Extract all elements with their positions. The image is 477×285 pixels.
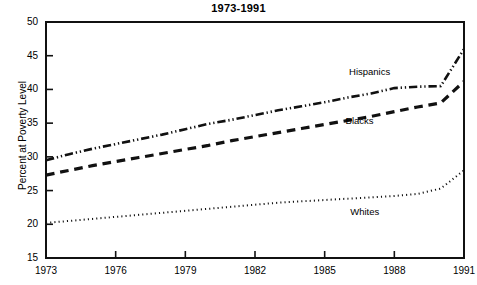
y-axis-tick-label: 45 [12, 51, 38, 61]
y-axis-tick-label: 15 [12, 253, 38, 263]
series-label-whites: Whites [350, 207, 379, 217]
y-axis-tick-label: 20 [12, 219, 38, 229]
x-axis-tick-label: 1976 [96, 266, 136, 276]
series-label-blacks: Blacks [346, 116, 374, 126]
y-axis-tick-label: 50 [12, 17, 38, 27]
y-axis-tick-label: 30 [12, 152, 38, 162]
x-axis-tick-label: 1985 [305, 266, 345, 276]
x-axis-tick-label: 1982 [235, 266, 275, 276]
plot-area [0, 0, 477, 285]
series-line-blacks [46, 81, 464, 175]
x-axis-tick-label: 1973 [26, 266, 66, 276]
plot-frame [46, 22, 464, 258]
poverty-rate-line-chart: 1973-1991 Percent at Poverty Level 15202… [0, 0, 477, 285]
series-line-hispanics [46, 49, 464, 160]
x-axis-tick-label: 1979 [165, 266, 205, 276]
series-line-whites [46, 170, 464, 223]
x-axis-tick-label: 1988 [374, 266, 414, 276]
y-axis-tick-label: 25 [12, 186, 38, 196]
chart-title: 1973-1991 [0, 1, 477, 15]
y-axis-tick-label: 35 [12, 118, 38, 128]
y-axis-tick-label: 40 [12, 84, 38, 94]
x-axis-tick-label: 1991 [444, 266, 477, 276]
series-label-hispanics: Hispanics [349, 67, 390, 77]
